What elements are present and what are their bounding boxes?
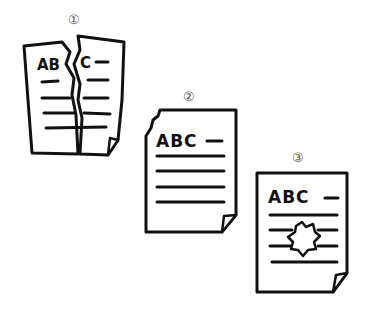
figure-2-text: ABC — [156, 131, 198, 151]
document-torn-corner-icon — [146, 110, 236, 232]
torn-document-icon — [24, 36, 124, 155]
figure-1-text-right: C — [80, 54, 91, 72]
figure-1-text-left: AB — [37, 56, 60, 74]
illustration: AB C ABC ABC — [0, 0, 370, 310]
figure-3-text: ABC — [268, 187, 310, 207]
